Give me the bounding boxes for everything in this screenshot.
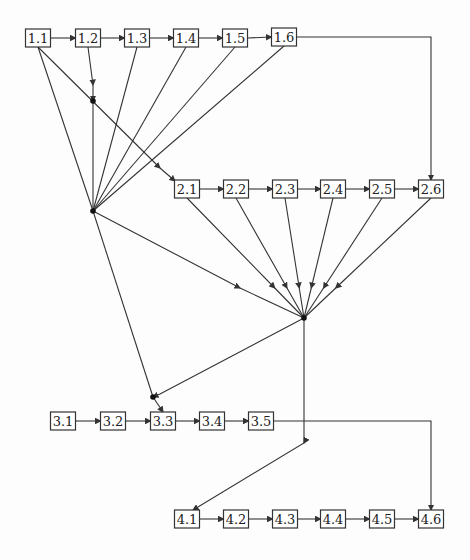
node-label: 2.3 (275, 182, 296, 197)
node-3-1: 3.1 (51, 412, 76, 430)
node-label: 4.3 (275, 512, 296, 527)
edge-line (93, 211, 304, 318)
node-1-1: 1.1 (26, 29, 51, 47)
node-label: 3.2 (103, 414, 124, 429)
junction-dot (150, 394, 156, 400)
node-label: 2.2 (226, 182, 247, 197)
edge-line (248, 37, 272, 38)
node-label: 1.5 (225, 31, 246, 46)
node-2-4: 2.4 (321, 180, 346, 198)
edge-line (93, 211, 153, 397)
junction-dot (90, 98, 96, 104)
node-label: 3.1 (53, 414, 74, 429)
node-4-5: 4.5 (370, 510, 395, 528)
node-3-3: 3.3 (151, 412, 176, 430)
node-label: 1.3 (127, 31, 148, 46)
node-2-5: 2.5 (370, 180, 395, 198)
edge-line (187, 198, 304, 318)
edge-line (153, 318, 304, 397)
node-label: 4.2 (226, 512, 247, 527)
junction-dot (301, 315, 307, 321)
edge-line (93, 47, 186, 211)
node-label: 1.6 (274, 30, 295, 45)
node-1-5: 1.5 (223, 29, 248, 47)
node-1-4: 1.4 (174, 29, 199, 47)
flow-diagram: 1.11.21.31.41.51.62.12.22.32.42.52.63.13… (0, 0, 470, 560)
edge-line (274, 421, 432, 510)
edge-line (304, 198, 382, 318)
node-label: 4.4 (323, 512, 344, 527)
edge-line (285, 198, 304, 318)
edge-line (88, 47, 93, 101)
node-1-3: 1.3 (125, 29, 150, 47)
node-4-6: 4.6 (419, 510, 444, 528)
node-label: 3.5 (251, 414, 272, 429)
node-2-3: 2.3 (273, 180, 298, 198)
edge-line (304, 198, 431, 318)
node-4-1: 4.1 (175, 510, 200, 528)
node-label: 4.1 (177, 512, 198, 527)
node-3-5: 3.5 (249, 412, 274, 430)
node-label: 4.5 (372, 512, 393, 527)
node-3-4: 3.4 (200, 412, 225, 430)
edge-line (93, 47, 235, 211)
diagram-canvas: 1.11.21.31.41.51.62.12.22.32.42.52.63.13… (0, 0, 470, 560)
node-4-2: 4.2 (224, 510, 249, 528)
node-label: 1.4 (176, 31, 197, 46)
node-3-2: 3.2 (101, 412, 126, 430)
node-label: 1.2 (78, 31, 99, 46)
node-label: 1.1 (28, 31, 49, 46)
node-2-2: 2.2 (224, 180, 249, 198)
node-label: 3.4 (202, 414, 223, 429)
node-label: 2.5 (372, 182, 393, 197)
edge-line (38, 47, 93, 211)
node-4-3: 4.3 (273, 510, 298, 528)
node-label: 2.6 (421, 182, 442, 197)
node-label: 2.4 (323, 182, 344, 197)
node-label: 4.6 (421, 512, 442, 527)
node-label: 3.3 (153, 414, 174, 429)
node-1-2: 1.2 (76, 29, 101, 47)
node-4-4: 4.4 (321, 510, 346, 528)
node-1-6: 1.6 (272, 28, 297, 46)
edge-line (297, 37, 432, 180)
node-2-6: 2.6 (419, 180, 444, 198)
edge-line (304, 198, 333, 318)
node-2-1: 2.1 (175, 180, 200, 198)
node-label: 2.1 (177, 182, 198, 197)
junction-dot (90, 208, 96, 214)
